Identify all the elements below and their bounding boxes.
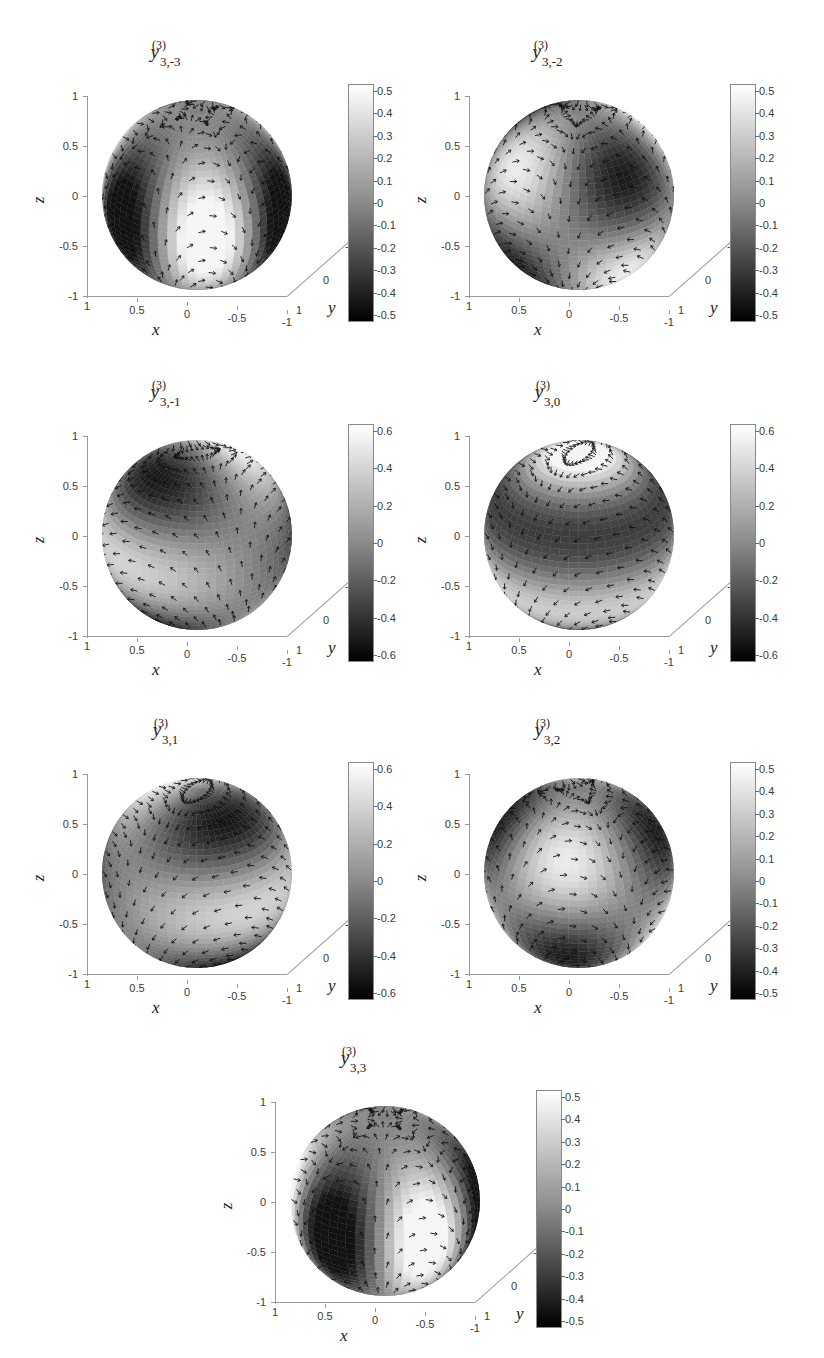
axes-3d: 10.50-0.5-110.50-0.5-110-1zxy bbox=[40, 760, 330, 1040]
axes-3d: 10.50-0.5-110.50-0.5-110-1zxy bbox=[40, 82, 330, 362]
z-axis-label: z bbox=[411, 197, 431, 204]
x-tick-label: -0.5 bbox=[228, 312, 247, 324]
x-tickmark bbox=[237, 984, 238, 988]
colorbar-tick-label: -0.2 bbox=[759, 574, 778, 586]
panel-title: y(3)3,0 bbox=[404, 380, 704, 407]
x-tickmark bbox=[137, 976, 138, 980]
x-tick-label: -1 bbox=[664, 656, 674, 668]
sphere-shading bbox=[102, 440, 292, 630]
colorbar-tick-label: -0.2 bbox=[759, 242, 778, 254]
z-tick-label: 0 bbox=[432, 530, 460, 542]
sphere-surface bbox=[290, 1106, 480, 1296]
colorbar-tick-label: 0 bbox=[759, 875, 765, 887]
x-tickmark bbox=[187, 302, 188, 306]
colorbar-tick-label: -0.3 bbox=[759, 942, 778, 954]
colorbar-tick-label: 0 bbox=[377, 197, 383, 209]
z-tick-label: 0.5 bbox=[432, 140, 460, 152]
colorbar-tick-label: 0.2 bbox=[759, 830, 774, 842]
axes-3d: 10.50-0.5-110.50-0.5-110-1zxy bbox=[40, 422, 330, 702]
y-axis-label: y bbox=[328, 976, 336, 996]
colorbar-tick-label: -0.4 bbox=[377, 950, 396, 962]
x-tick-label: 0 bbox=[184, 986, 190, 998]
z-tick-label: 1 bbox=[432, 90, 460, 102]
colorbar: 0.60.40.20-0.2-0.4-0.6 bbox=[348, 762, 374, 1000]
z-tick-label: 0.5 bbox=[50, 480, 78, 492]
panel-title-superscript: (3) bbox=[536, 378, 550, 392]
x-tick-label: 0 bbox=[372, 1314, 378, 1326]
y-axis-line bbox=[287, 581, 350, 637]
x-tickmark bbox=[519, 298, 520, 302]
x-tickmark bbox=[287, 650, 288, 654]
colorbar-tick-label: -0.2 bbox=[377, 912, 396, 924]
y-axis-label: y bbox=[328, 638, 336, 658]
colorbar-tick-label: 0.4 bbox=[377, 462, 392, 474]
z-tickmark bbox=[465, 436, 469, 437]
colorbar-tick-label: 0.3 bbox=[759, 808, 774, 820]
x-tick-label: 1 bbox=[84, 300, 90, 312]
panel-title-subscript: 3,1 bbox=[162, 732, 178, 747]
panel-y3-p2: y(3)3,210.50-0.5-110.50-0.5-110-1zxy0.50… bbox=[404, 712, 816, 1052]
y-axis-line bbox=[669, 581, 732, 637]
x-tickmark bbox=[475, 1316, 476, 1320]
x-axis-label: x bbox=[152, 998, 160, 1018]
z-tickmark bbox=[465, 874, 469, 875]
z-axis-label: z bbox=[29, 875, 49, 882]
z-tick-label: -1 bbox=[432, 290, 460, 302]
axes-3d: 10.50-0.5-110.50-0.5-110-1zxy bbox=[422, 422, 712, 702]
colorbar-gradient bbox=[731, 763, 755, 999]
colorbar-tick-label: 0.6 bbox=[377, 763, 392, 775]
colorbar-tick-label: -0.1 bbox=[377, 219, 396, 231]
x-tickmark bbox=[669, 988, 670, 992]
colorbar-tick-label: -0.3 bbox=[759, 264, 778, 276]
z-tick-label: 0.5 bbox=[50, 140, 78, 152]
colorbar-tick-label: 0.2 bbox=[377, 500, 392, 512]
panel-title-subscript: 3,-2 bbox=[542, 54, 563, 69]
x-tickmark bbox=[137, 638, 138, 642]
colorbar-tick-label: -0.4 bbox=[759, 612, 778, 624]
x-tick-label: -0.5 bbox=[228, 990, 247, 1002]
z-axis-line bbox=[87, 96, 88, 296]
y-axis-label: y bbox=[328, 298, 336, 318]
y-axis-label: y bbox=[710, 976, 718, 996]
colorbar-tick-label: -0.1 bbox=[759, 219, 778, 231]
panel-title: y(3)3,-1 bbox=[22, 380, 322, 407]
x-tick-label: 0.5 bbox=[129, 982, 144, 994]
z-axis-line bbox=[469, 774, 470, 974]
panel-title-subscript: 3,-1 bbox=[160, 394, 181, 409]
z-tick-label: 0.5 bbox=[50, 818, 78, 830]
colorbar: 0.50.40.30.20.10-0.1-0.2-0.3-0.4-0.5 bbox=[536, 1090, 562, 1328]
colorbar-tick-label: 0.1 bbox=[565, 1181, 580, 1193]
colorbar-gradient bbox=[349, 85, 373, 321]
colorbar: 0.50.40.30.20.10-0.1-0.2-0.3-0.4-0.5 bbox=[730, 84, 756, 322]
z-tickmark bbox=[271, 1152, 275, 1153]
z-tickmark bbox=[83, 774, 87, 775]
x-tickmark bbox=[375, 1308, 376, 1312]
colorbar-tick-label: 0.6 bbox=[759, 425, 774, 437]
z-tickmark bbox=[271, 1102, 275, 1103]
x-axis-label: x bbox=[534, 998, 542, 1018]
y-tick-label: 1 bbox=[678, 644, 684, 656]
x-tick-label: 0 bbox=[566, 648, 572, 660]
z-tickmark bbox=[83, 824, 87, 825]
x-tick-label: 1 bbox=[84, 978, 90, 990]
x-tick-label: 0.5 bbox=[129, 304, 144, 316]
colorbar-tick-label: 0.4 bbox=[759, 462, 774, 474]
colorbar-tick-label: -0.4 bbox=[377, 612, 396, 624]
x-tickmark bbox=[325, 1304, 326, 1308]
x-tickmark bbox=[669, 650, 670, 654]
colorbar-tick-label: 0 bbox=[759, 197, 765, 209]
z-tick-label: 0.5 bbox=[432, 818, 460, 830]
x-tickmark bbox=[519, 638, 520, 642]
colorbar: 0.60.40.20-0.2-0.4-0.6 bbox=[730, 424, 756, 662]
z-tickmark bbox=[83, 436, 87, 437]
colorbar-tick-label: 0.2 bbox=[565, 1158, 580, 1170]
y-tick-label: 1 bbox=[678, 304, 684, 316]
colorbar-tick-label: -0.5 bbox=[759, 309, 778, 321]
colorbar-tick-label: -0.2 bbox=[377, 574, 396, 586]
colorbar-gradient bbox=[731, 425, 755, 661]
x-tickmark bbox=[469, 294, 470, 298]
x-tickmark bbox=[469, 634, 470, 638]
z-tickmark bbox=[465, 586, 469, 587]
y-tick-label: 0 bbox=[323, 274, 329, 286]
y-tick-label: 0 bbox=[705, 614, 711, 626]
